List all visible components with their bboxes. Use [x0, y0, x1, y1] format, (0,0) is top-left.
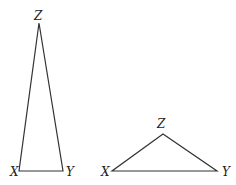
triangles-diagram: X Y Z X Y Z	[0, 0, 236, 185]
label-left-y: Y	[66, 165, 75, 179]
label-left-z: Z	[33, 9, 43, 23]
label-right-z: Z	[156, 117, 166, 131]
label-right-y: Y	[222, 165, 231, 179]
triangle-right	[112, 134, 217, 171]
label-right-x: X	[100, 165, 110, 179]
label-left-x: X	[9, 165, 19, 179]
triangle-left	[19, 23, 63, 171]
